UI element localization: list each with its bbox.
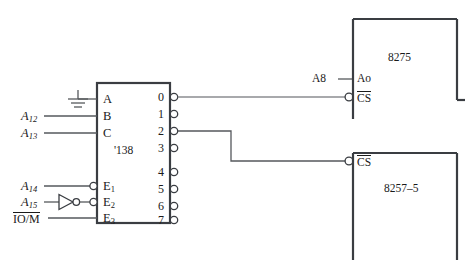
decoder-pin-e1: E1 — [103, 180, 115, 193]
decoder-pin-e2: E2 — [103, 196, 115, 209]
decoder-output-label-7: 7 — [158, 214, 164, 226]
ground-icon — [68, 90, 97, 107]
output-bubble-7 — [170, 216, 177, 223]
decoder-pin-c: C — [103, 127, 111, 140]
wire-output2-to-8257-cs — [178, 131, 345, 161]
decoder-output-label-1: 1 — [158, 108, 164, 120]
decoder-pin-b: B — [103, 110, 111, 123]
circuit-diagram-canvas: A12 A13 A14 A15 IO/M A B C E1 E2 E3 '138… — [0, 0, 465, 266]
chip-8257-5-name: 8257–5 — [384, 183, 419, 195]
output-bubble-5 — [170, 185, 177, 192]
signal-label-a12: A12 — [21, 110, 37, 123]
chip-8257-5-pin-cs: CS — [357, 155, 371, 169]
signal-label-a14: A14 — [21, 180, 37, 193]
chip-8275-pin-cs: CS — [357, 91, 371, 105]
output-bubble-4 — [170, 168, 177, 175]
inversion-bubble-icon-8257-cs — [345, 157, 353, 165]
decoder-pin-a: A — [103, 93, 112, 106]
chip-8275-pin-ao: Ao — [357, 73, 371, 85]
output-bubble-2 — [170, 127, 177, 134]
decoder-pin-e3: E3 — [103, 212, 115, 225]
decoder-chip-label: '138 — [114, 145, 133, 157]
chip-8257-5-outline — [353, 153, 457, 260]
chip-8275-name: 8275 — [388, 52, 411, 64]
inversion-bubble-icon-e1 — [90, 182, 97, 189]
decoder-output-label-6: 6 — [158, 200, 164, 212]
signal-label-iom: IO/M — [13, 212, 40, 226]
inversion-bubble-icon-8275-cs — [345, 93, 353, 101]
decoder-output-bubbles — [170, 93, 177, 223]
inversion-bubble-icon-e2 — [90, 198, 97, 205]
output-bubble-0 — [170, 93, 177, 100]
signal-label-a15: A15 — [21, 196, 37, 209]
inverter-gate-icon — [59, 195, 80, 210]
circuit-schematic-svg — [0, 0, 465, 266]
signal-label-a8: A8 — [312, 73, 326, 85]
decoder-output-label-3: 3 — [158, 142, 164, 154]
decoder-output-label-2: 2 — [158, 125, 164, 137]
output-bubble-6 — [170, 202, 177, 209]
output-bubble-1 — [170, 110, 177, 117]
signal-label-a13: A13 — [21, 127, 37, 140]
output-bubble-3 — [170, 144, 177, 151]
decoder-output-label-0: 0 — [158, 91, 164, 103]
decoder-output-label-4: 4 — [158, 166, 164, 178]
decoder-output-label-5: 5 — [158, 183, 164, 195]
